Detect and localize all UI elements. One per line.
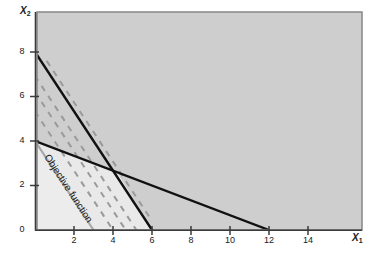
y-axis-label: X2 xyxy=(20,5,31,16)
y-tick-label-2: 2 xyxy=(16,179,28,189)
y-tick-label-0: 0 xyxy=(16,224,28,234)
x-tick-label-6: 6 xyxy=(146,235,158,245)
x-tick-label-10: 10 xyxy=(223,235,237,245)
x-tick-label-2: 2 xyxy=(68,235,80,245)
x-tick-label-8: 8 xyxy=(185,235,197,245)
x-tick-label-4: 4 xyxy=(107,235,119,245)
y-axis-label-text: X xyxy=(20,5,27,16)
x-axis-label: X1 xyxy=(352,232,363,243)
x-tick-label-12: 12 xyxy=(262,235,276,245)
y-tick-label-6: 6 xyxy=(16,90,28,100)
x-axis-label-text: X xyxy=(352,232,359,243)
x-tick-label-14: 14 xyxy=(301,235,315,245)
y-tick-label-8: 8 xyxy=(16,46,28,56)
y-axis-label-subscript: 2 xyxy=(27,10,31,17)
x-axis-label-subscript: 1 xyxy=(359,237,363,244)
y-tick-label-4: 4 xyxy=(16,135,28,145)
chart-figure: Objective function X2 X1 8 6 4 2 0 2 4 6… xyxy=(0,0,385,261)
plot-canvas: Objective function xyxy=(0,0,385,261)
